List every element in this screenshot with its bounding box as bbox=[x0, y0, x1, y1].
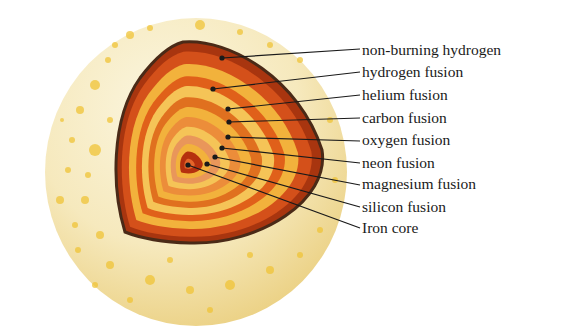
leader-dot bbox=[204, 161, 209, 166]
label-non-burning-hydrogen: non-burning hydrogen bbox=[362, 41, 501, 59]
label-oxygen-fusion: oxygen fusion bbox=[362, 131, 450, 149]
label-hydrogen-fusion: hydrogen fusion bbox=[362, 63, 463, 81]
label-carbon-fusion: carbon fusion bbox=[362, 109, 447, 127]
label-helium-fusion: helium fusion bbox=[362, 86, 448, 104]
label-neon-fusion: neon fusion bbox=[362, 154, 435, 172]
leader-dot bbox=[226, 119, 231, 124]
leader-dot bbox=[210, 86, 215, 91]
leader-dot bbox=[185, 162, 190, 167]
leader-dot bbox=[225, 134, 230, 139]
label-magnesium-fusion: magnesium fusion bbox=[362, 175, 476, 193]
label-silicon-fusion: silicon fusion bbox=[362, 198, 446, 216]
leader-dot bbox=[225, 106, 230, 111]
leader-dot bbox=[212, 154, 217, 159]
leader-dot bbox=[219, 145, 224, 150]
label-iron-core: Iron core bbox=[362, 219, 418, 237]
leader-dot bbox=[219, 55, 224, 60]
